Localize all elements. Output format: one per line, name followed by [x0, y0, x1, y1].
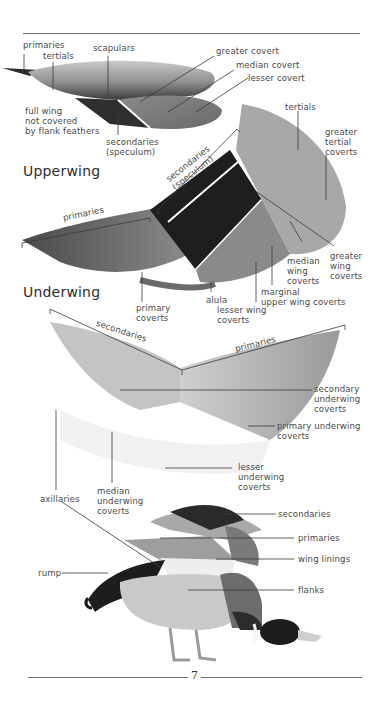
label-wing-linings: wing linings: [298, 554, 350, 564]
label-greater-covert: greater covert: [216, 46, 279, 56]
label-primary-coverts: primary coverts: [136, 303, 170, 323]
label-axillaries: axillaries: [40, 494, 79, 504]
label-lesser-wing-coverts: lesser wing coverts: [217, 305, 267, 325]
label-marginal-coverts: marginal upper wing coverts: [261, 287, 346, 307]
heading-upperwing: Upperwing: [23, 163, 100, 179]
label-lesser-underwing-coverts: lesser underwing coverts: [238, 462, 284, 492]
label-flanks: flanks: [298, 585, 324, 595]
label-duck-primaries: primaries: [298, 533, 340, 543]
label-folded-tertials: tertials: [43, 51, 74, 61]
label-median-underwing-coverts: median underwing coverts: [97, 486, 143, 516]
label-lesser-covert: lesser covert: [248, 73, 305, 83]
page-number: 7: [188, 669, 201, 682]
underwing-art: [50, 322, 340, 474]
label-median-covert: median covert: [236, 60, 300, 70]
mallard-drake-art: [86, 505, 322, 660]
label-primary-underwing-coverts: primary underwing coverts: [277, 421, 361, 441]
label-folded-primaries: primaries: [23, 40, 65, 50]
label-scapulars: scapulars: [93, 43, 135, 53]
label-full-wing-note: full wing not covered by flank feathers: [25, 106, 100, 136]
label-secondary-underwing-coverts: secondary underwing coverts: [314, 384, 360, 414]
label-greater-wing-coverts: greater wing coverts: [330, 251, 362, 281]
label-median-wing-coverts: median wing coverts: [287, 256, 320, 286]
label-alula: alula: [206, 295, 227, 305]
label-upper-tertials: tertials: [285, 102, 316, 112]
label-folded-secondaries: secondaries (speculum): [106, 137, 159, 157]
label-rump: rump: [38, 568, 61, 578]
heading-underwing: Underwing: [23, 284, 100, 300]
label-greater-tertial-coverts: greater tertial coverts: [325, 127, 357, 157]
label-duck-secondaries: secondaries: [278, 509, 331, 519]
